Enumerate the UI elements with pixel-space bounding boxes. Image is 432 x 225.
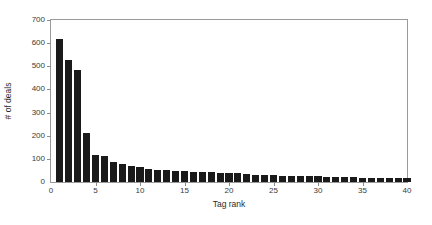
x-tick-label: 10 — [136, 187, 145, 195]
bar — [288, 176, 295, 182]
y-tick-mark — [47, 159, 51, 160]
bar — [243, 174, 250, 182]
figure-canvas: 0100200300400500600700 0510152025303540 … — [0, 0, 432, 225]
x-axis-title: Tag rank — [50, 200, 408, 209]
bar — [145, 169, 152, 182]
y-tick-mark — [47, 43, 51, 44]
bar — [190, 172, 197, 182]
bar — [261, 175, 268, 182]
x-tick-label: 20 — [225, 187, 234, 195]
bar — [341, 177, 348, 182]
bar — [306, 176, 313, 182]
bar — [217, 173, 224, 182]
bar — [128, 166, 135, 182]
bar — [297, 176, 304, 182]
bar — [323, 177, 330, 182]
bar — [350, 177, 357, 182]
x-tick-label: 35 — [358, 187, 367, 195]
bar — [332, 177, 339, 182]
bar — [386, 178, 393, 182]
y-tick-label: 200 — [32, 132, 45, 140]
bar — [234, 173, 241, 182]
bar — [181, 171, 188, 182]
bar — [101, 156, 108, 182]
y-tick-label: 700 — [32, 16, 45, 24]
bar — [136, 167, 143, 182]
y-tick-mark — [47, 89, 51, 90]
bar — [208, 172, 215, 182]
bar — [163, 170, 170, 182]
bar — [92, 155, 99, 182]
y-tick-label: 400 — [32, 85, 45, 93]
plot-axes-frame: 0100200300400500600700 0510152025303540 — [50, 19, 408, 183]
bar — [74, 70, 81, 182]
bar — [395, 178, 402, 182]
bar — [368, 178, 375, 182]
bar — [252, 175, 259, 182]
y-tick-mark — [47, 66, 51, 67]
y-tick-label: 500 — [32, 62, 45, 70]
y-tick-mark — [47, 20, 51, 21]
bar — [154, 170, 161, 182]
x-tick-label: 40 — [403, 187, 412, 195]
bar — [83, 133, 90, 182]
x-tick-label: 30 — [314, 187, 323, 195]
y-tick-label: 100 — [32, 155, 45, 163]
bar — [56, 39, 63, 182]
x-tick-label: 0 — [49, 187, 53, 195]
bar — [403, 178, 410, 182]
y-tick-mark — [47, 136, 51, 137]
bar — [377, 178, 384, 182]
bar — [65, 60, 72, 182]
y-tick-label: 600 — [32, 39, 45, 47]
y-tick-label: 300 — [32, 109, 45, 117]
y-tick-mark — [47, 113, 51, 114]
bar — [172, 171, 179, 182]
bar — [119, 164, 126, 183]
x-tick-label: 5 — [93, 187, 97, 195]
x-tick-label: 15 — [180, 187, 189, 195]
bar-series — [51, 20, 407, 182]
bar — [110, 162, 117, 182]
y-tick-label: 0 — [41, 178, 45, 186]
bar — [279, 176, 286, 182]
bar — [225, 173, 232, 182]
y-axis-title: # of deals — [4, 83, 13, 120]
x-tick-label: 25 — [269, 187, 278, 195]
bar — [199, 172, 206, 182]
bar — [270, 175, 277, 182]
